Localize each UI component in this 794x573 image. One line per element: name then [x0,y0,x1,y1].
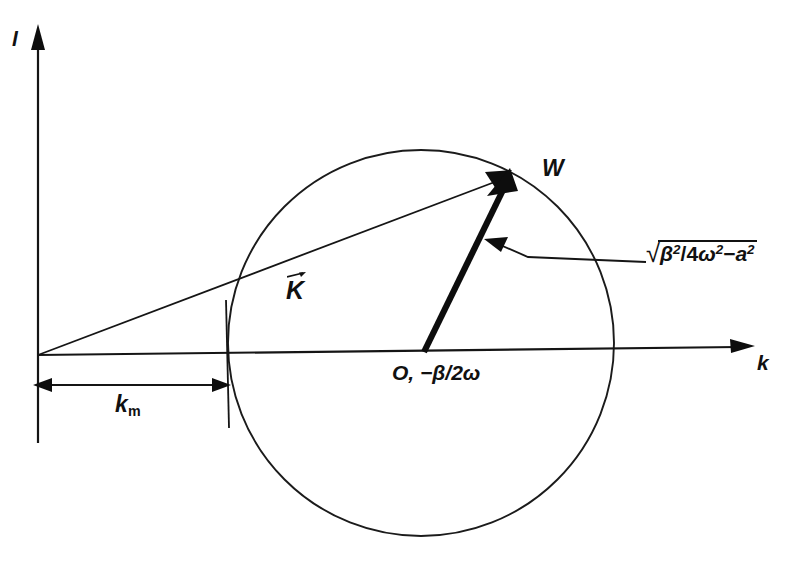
x-axis-line [38,347,738,355]
x-axis-arrowhead-icon [730,339,755,353]
km-dimension-arrowhead-left-icon [33,378,52,392]
figure-canvas: l k K W O, −β/2ω km √β2/4ω2−a2 [0,0,794,573]
km-label: km [115,393,140,416]
k-vector-label: K [286,278,304,303]
y-axis-label: l [12,28,18,49]
x-axis-label: k [757,352,769,373]
vector-accent-arrow-icon [287,271,306,280]
formula-denominator-exp: 2 [716,242,723,257]
formula-denominator-coeff: 4 [686,242,698,265]
formula-minus-sign: − [723,242,735,265]
k-vector-label-text: K [286,276,304,304]
formula-subtrahend-exp: 2 [747,242,754,257]
radical-sign-icon: √ [646,241,660,267]
diagram-svg [0,0,794,573]
km-label-base: k [115,391,128,417]
formula-subtrahend-base: a [735,242,747,265]
formula-leader-arrowhead-icon [484,237,508,252]
radicand-group: β2/4ω2−a2 [658,240,757,264]
formula-leader-line [498,244,646,262]
formula-numerator-base: β [660,242,673,265]
km-label-subscript: m [128,403,141,419]
dispersion-circle [228,150,614,536]
sqrt-formula-label: √β2/4ω2−a2 [646,240,757,267]
circle-center-label: O, −β/2ω [392,362,480,383]
radius-vector-line [424,190,503,352]
formula-denominator-base: ω [698,242,716,265]
y-axis-arrowhead-icon [31,24,45,50]
w-point-label: W [542,157,564,180]
formula-numerator-exp: 2 [673,242,680,257]
k-vector-line [38,180,500,355]
